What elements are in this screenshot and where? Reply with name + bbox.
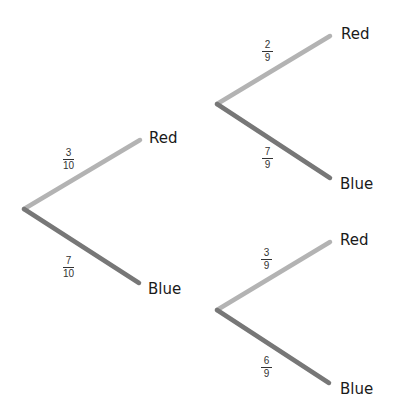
numerator: 3 bbox=[66, 148, 72, 158]
prob-s2b-blue: 6 9 bbox=[261, 356, 272, 379]
outcome-s2b-red: Red bbox=[340, 231, 369, 249]
tree-branches bbox=[0, 0, 397, 418]
prob-s1-blue: 7 10 bbox=[63, 256, 74, 279]
numerator: 3 bbox=[264, 248, 270, 258]
prob-s2b-red: 3 9 bbox=[261, 248, 272, 271]
denominator: 9 bbox=[264, 261, 270, 271]
branch-s2b-red bbox=[217, 242, 330, 310]
outcome-s1-red: Red bbox=[149, 129, 178, 147]
denominator: 10 bbox=[63, 269, 74, 279]
branch-s2b-blue bbox=[217, 310, 329, 383]
numerator: 6 bbox=[264, 356, 270, 366]
denominator: 9 bbox=[265, 53, 271, 63]
outcome-s2b-blue: Blue bbox=[340, 380, 373, 398]
branch-s1-blue bbox=[24, 209, 139, 283]
denominator: 9 bbox=[265, 160, 271, 170]
branch-s2a-blue bbox=[217, 104, 330, 178]
numerator: 7 bbox=[265, 147, 271, 157]
prob-s2a-blue: 7 9 bbox=[262, 147, 273, 170]
prob-s1-red: 3 10 bbox=[63, 148, 74, 171]
outcome-s1-blue: Blue bbox=[148, 280, 181, 298]
outcome-s2a-red: Red bbox=[341, 25, 370, 43]
prob-s2a-red: 2 9 bbox=[262, 40, 273, 63]
branch-s2a-red bbox=[217, 36, 330, 104]
numerator: 2 bbox=[265, 40, 271, 50]
denominator: 10 bbox=[63, 161, 74, 171]
denominator: 9 bbox=[264, 369, 270, 379]
numerator: 7 bbox=[66, 256, 72, 266]
branch-s1-red bbox=[24, 140, 140, 209]
outcome-s2a-blue: Blue bbox=[340, 175, 373, 193]
